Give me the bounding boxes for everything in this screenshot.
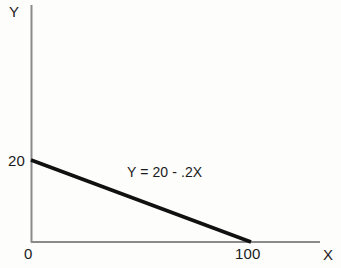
y-axis-tick-label-20: 20 bbox=[8, 153, 25, 168]
chart-figure: Y X 20 0 100 Y = 20 - .2X bbox=[0, 0, 341, 268]
x-axis-label: X bbox=[323, 247, 333, 262]
equation-annotation: Y = 20 - .2X bbox=[127, 165, 202, 179]
chart-plot-area bbox=[0, 0, 341, 268]
x-axis-tick-label-0: 0 bbox=[24, 246, 33, 261]
x-axis-tick-label-100: 100 bbox=[235, 246, 261, 261]
y-axis-label: Y bbox=[9, 4, 19, 19]
